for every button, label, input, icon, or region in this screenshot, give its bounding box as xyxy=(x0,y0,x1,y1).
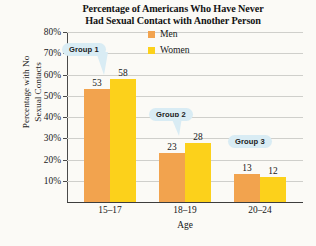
bar-women-18-19[interactable]: 28 xyxy=(185,143,211,203)
bar-men-20-24[interactable]: 13 xyxy=(234,174,260,202)
bar-men-18-19[interactable]: 23 xyxy=(159,153,185,202)
bar-women-20-24[interactable]: 12 xyxy=(260,177,286,203)
callout-group-2-tail-icon xyxy=(170,117,190,137)
legend-item-men[interactable]: Men xyxy=(148,27,234,41)
y-tick-label: 50% xyxy=(44,91,61,101)
y-axis-title-line-1: Percentage with No xyxy=(20,12,32,172)
y-tick-label: 70% xyxy=(44,48,61,58)
chart-legend: Men Women xyxy=(148,27,234,59)
tick-mark xyxy=(63,96,67,97)
tick-mark xyxy=(63,32,67,33)
bar-value-women-15-17: 58 xyxy=(118,68,127,78)
x-tick-label-18-19: 18–19 xyxy=(173,205,196,215)
bar-men-15-17[interactable]: 53 xyxy=(84,89,110,202)
y-tick-label: 40% xyxy=(44,112,61,122)
y-tick-label: 60% xyxy=(44,70,61,80)
x-axis-title: Age xyxy=(67,220,303,230)
y-tick-label: 30% xyxy=(44,133,61,143)
y-axis-title-line-2: Sexual Contacts xyxy=(32,12,44,172)
bar-women-15-17[interactable]: 58 xyxy=(110,79,136,202)
tick-mark xyxy=(63,117,67,118)
bar-value-men-18-19: 23 xyxy=(167,142,176,152)
tick-mark xyxy=(63,181,67,182)
bar-value-women-18-19: 28 xyxy=(193,132,202,142)
bar-value-men-20-24: 13 xyxy=(242,163,251,173)
tick-mark xyxy=(63,75,67,76)
y-tick-label: 20% xyxy=(44,155,61,165)
tick-mark xyxy=(63,138,67,139)
y-tick-label: 10% xyxy=(44,176,61,186)
bar-group-20-24: 13 12 20–24 xyxy=(234,32,286,202)
callout-group-3-label: Group 3 xyxy=(235,137,265,146)
y-axis-title: Percentage with No Sexual Contacts xyxy=(20,12,46,172)
legend-swatch-women-icon xyxy=(148,47,155,54)
bar-value-men-15-17: 53 xyxy=(92,78,101,88)
legend-label-men: Men xyxy=(160,29,178,39)
x-axis-line xyxy=(67,202,303,203)
bar-value-women-20-24: 12 xyxy=(268,166,277,176)
chart-title-line-1: Percentage of Americans Who Have Never xyxy=(48,3,298,15)
bar-chart-figure: Percentage of Americans Who Have Never H… xyxy=(0,0,316,246)
callout-group-1-tail-icon xyxy=(94,52,116,76)
chart-title: Percentage of Americans Who Have Never H… xyxy=(48,3,298,27)
chart-title-line-2: Had Sexual Contact with Another Person xyxy=(48,15,298,27)
callout-group-3: Group 3 xyxy=(228,135,272,148)
y-tick-label: 80% xyxy=(44,27,61,37)
legend-label-women: Women xyxy=(160,45,190,55)
tick-mark xyxy=(63,160,67,161)
x-tick-label-20-24: 20–24 xyxy=(248,205,271,215)
x-tick-label-15-17: 15–17 xyxy=(98,205,121,215)
legend-swatch-men-icon xyxy=(148,31,155,38)
legend-item-women[interactable]: Women xyxy=(148,43,234,57)
